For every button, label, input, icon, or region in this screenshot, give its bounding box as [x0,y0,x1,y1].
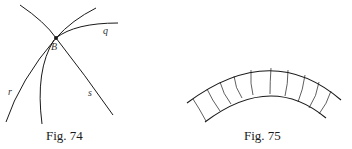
curve-s [20,5,113,115]
label-q: q [103,25,108,36]
curve-inner [40,40,54,124]
figure-74-caption: Fig. 74 [46,128,83,144]
figure-75-caption: Fig. 75 [244,128,281,144]
label-s: s [88,87,92,98]
label-b: B [51,41,57,52]
arch-inner-arc [205,96,326,122]
arch-outer-arc [187,71,341,103]
arch-rungs [193,68,331,121]
curve-q [56,23,118,38]
figure-74-drawing [0,0,176,149]
label-r: r [8,86,12,97]
point-b-dot [54,36,58,40]
